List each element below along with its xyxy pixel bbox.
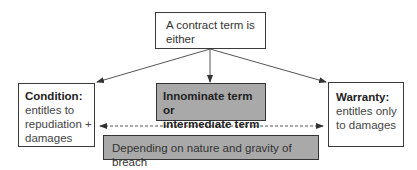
innominate-text-line: Innominate term or xyxy=(163,89,265,117)
warranty-text-line: entitles only xyxy=(336,104,403,118)
condition-text-line: repudiation + xyxy=(25,117,94,131)
innominate-text-line: intermediate term xyxy=(163,117,265,131)
warranty-box: Warranty: entitles only to damages xyxy=(328,82,404,147)
contract-term-text: A contract term is either xyxy=(166,19,255,45)
warranty-title: Warranty: xyxy=(336,90,403,104)
warranty-text-line: to damages xyxy=(336,118,403,132)
condition-text-line: damages xyxy=(25,131,94,145)
condition-box: Condition: entitles to repudiation + dam… xyxy=(18,83,95,147)
contract-term-box: A contract term is either xyxy=(155,12,266,49)
condition-text-line: entitles to xyxy=(25,103,94,117)
innominate-term-box: Innominate term or intermediate term xyxy=(156,83,266,121)
breach-condition-box: Depending on nature and gravity of breac… xyxy=(103,135,319,160)
arrow-to-condition xyxy=(97,49,210,82)
condition-title: Condition: xyxy=(25,89,94,103)
arrow-to-warranty xyxy=(210,49,326,82)
